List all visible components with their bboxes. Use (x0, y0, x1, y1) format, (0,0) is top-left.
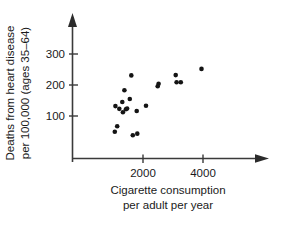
y-tick-label-200: 200 (46, 79, 65, 91)
x-tick-label-2000: 2000 (130, 167, 156, 179)
y-axis-title: Deaths from heart disease per 100,000 (a… (4, 26, 31, 161)
data-point (174, 80, 179, 85)
y-tick-label-100: 100 (46, 110, 65, 122)
x-axis-title-line1: Cigarette consumption (110, 184, 225, 196)
data-point (128, 97, 133, 102)
data-point (122, 88, 127, 93)
data-point (156, 81, 161, 86)
x-axis-title-line2: per adult per year (123, 199, 213, 211)
data-point (117, 107, 122, 112)
y-axis-ticks (69, 54, 78, 116)
y-axis-tick-labels: 300 200 100 (46, 48, 65, 122)
chart-canvas: 300 200 100 2000 4000 Cigarette consumpt… (0, 0, 295, 225)
data-point (120, 100, 125, 105)
data-point (131, 133, 136, 138)
data-point-layer (113, 67, 204, 138)
x-axis-title: Cigarette consumption per adult per year (110, 184, 225, 211)
data-point (199, 67, 204, 72)
x-tick-label-4000: 4000 (190, 167, 216, 179)
arrow-right-icon (255, 154, 269, 163)
data-point (135, 131, 140, 136)
data-point (173, 73, 178, 78)
y-tick-label-300: 300 (46, 48, 65, 60)
data-point (113, 104, 118, 109)
arrow-up-icon (68, 13, 77, 27)
data-point (115, 124, 120, 129)
data-point (125, 106, 130, 111)
data-point (129, 73, 134, 78)
scatter-plot-figure: 300 200 100 2000 4000 Cigarette consumpt… (0, 0, 295, 225)
data-point (134, 109, 139, 114)
x-axis-tick-labels: 2000 4000 (130, 167, 216, 179)
data-point (113, 130, 118, 135)
y-axis-title-line1: Deaths from heart disease (4, 26, 16, 161)
y-axis-title-line2: per 100,000 (ages 35–64) (19, 27, 31, 160)
data-point (179, 80, 184, 85)
data-point (144, 103, 149, 108)
